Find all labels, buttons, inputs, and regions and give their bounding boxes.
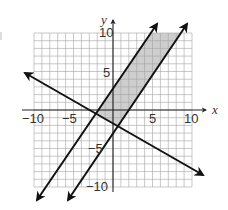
y-tick-5: 5 (103, 65, 110, 80)
coordinate-graph: x y −10 −5 5 10 10 5 −5 −10 (0, 0, 228, 210)
y-tick-neg5: −5 (88, 141, 103, 156)
x-tick-neg10: −10 (22, 111, 44, 126)
y-tick-10: 10 (99, 25, 113, 40)
x-tick-5: 5 (149, 111, 156, 126)
boundary-line-right (68, 24, 187, 200)
y-tick-neg10: −10 (86, 179, 108, 194)
x-tick-neg5: −5 (62, 111, 77, 126)
x-tick-10: 10 (184, 111, 198, 126)
x-axis-label: x (211, 102, 218, 117)
